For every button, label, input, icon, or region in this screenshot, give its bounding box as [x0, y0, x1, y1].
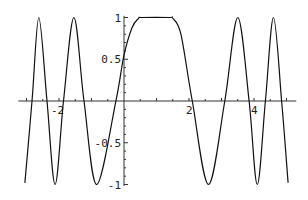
x-axis: -224: [18, 98, 296, 117]
x-tick-label: 4: [251, 104, 258, 117]
y-tick-label: 0.5: [101, 53, 121, 66]
y-tick-label: -1: [108, 179, 121, 192]
x-tick-label: 2: [186, 104, 193, 117]
line-chart: -224 10.5-0.5-1: [0, 0, 308, 200]
y-tick-label: 1: [114, 12, 121, 25]
